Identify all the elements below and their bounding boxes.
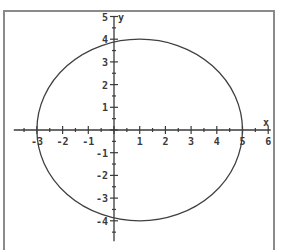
x-tick-label: 6 — [265, 136, 271, 147]
y-tick-label: 4 — [102, 34, 108, 45]
y-tick-label: 5 — [102, 12, 108, 23]
y-tick-label: -1 — [96, 148, 108, 159]
y-tick-label: 2 — [102, 80, 108, 91]
x-tick-label: 3 — [188, 136, 194, 147]
y-tick-label: 1 — [102, 102, 108, 113]
x-tick-label: 4 — [214, 136, 220, 147]
y-tick-label: 3 — [102, 57, 108, 68]
x-tick-label: -3 — [31, 136, 43, 147]
axes — [14, 17, 271, 242]
y-axis-label: y — [118, 12, 124, 23]
y-tick-label: -2 — [96, 170, 108, 181]
x-tick-label: -2 — [57, 136, 69, 147]
x-tick-label: -1 — [82, 136, 94, 147]
x-axis-label: x — [263, 117, 269, 128]
y-tick-label: -4 — [96, 216, 108, 227]
y-tick-label: -3 — [96, 193, 108, 204]
x-tick-label: 5 — [239, 136, 245, 147]
x-tick-label: 1 — [137, 136, 143, 147]
x-tick-label: 2 — [162, 136, 168, 147]
